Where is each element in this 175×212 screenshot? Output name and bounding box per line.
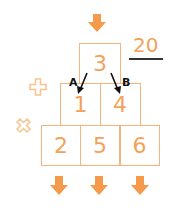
bottom-box-3: 6 [119,125,160,166]
bottom-value-1: 2 [54,133,68,158]
down-arrow-icon [131,176,149,195]
down-arrow-icon [50,176,68,195]
times-icon [15,117,32,134]
bottom-box-2: 5 [80,125,121,166]
bottom-value-2: 5 [93,133,107,158]
bottom-box-1: 2 [41,125,81,166]
bottom-value-3: 6 [133,133,147,158]
down-arrow-icon [90,176,108,195]
